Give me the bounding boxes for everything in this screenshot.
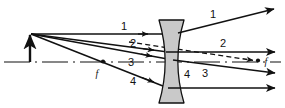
ray-2-direction-arrow bbox=[143, 49, 154, 51]
optics-ray-diagram: f f 1 2 3 4 1 2 3 4 bbox=[0, 0, 285, 108]
ray-label-2-incident: 2 bbox=[130, 37, 136, 49]
focal-point-left-dot bbox=[101, 59, 105, 63]
focal-point-right-dot bbox=[256, 58, 260, 62]
ray-label-3-refracted: 3 bbox=[202, 67, 208, 79]
ray-label-1-incident: 1 bbox=[121, 20, 127, 32]
ray-4-direction-arrow bbox=[142, 78, 154, 83]
focal-point-right-label: f bbox=[265, 56, 269, 67]
ray-label-2-refracted: 2 bbox=[220, 37, 226, 49]
virtual-ray-dashed bbox=[129, 42, 253, 60]
ray-1-refracted bbox=[178, 9, 274, 33]
ray-label-4-incident: 4 bbox=[130, 75, 136, 87]
ray-label-3-incident: 3 bbox=[128, 56, 134, 68]
diagram-canvas: f f 1 2 3 4 1 2 3 4 bbox=[0, 0, 285, 108]
ray-label-1-refracted: 1 bbox=[210, 8, 216, 20]
focal-point-left-label: f bbox=[96, 68, 100, 79]
ray-label-4-refracted: 4 bbox=[184, 68, 190, 80]
incident-ray-direction-arrows bbox=[138, 34, 154, 82]
